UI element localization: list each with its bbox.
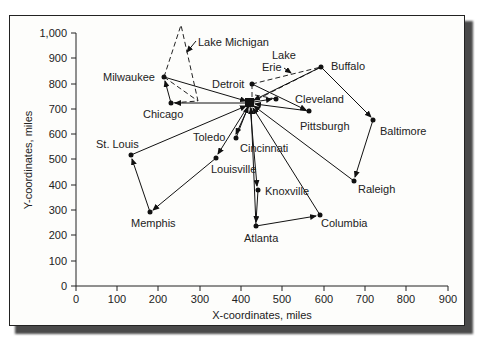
label-raleigh: Raleigh: [358, 183, 395, 195]
label-chicago: Chicago: [143, 108, 183, 120]
label-pittsburgh: Pittsburgh: [300, 120, 350, 132]
label-toledo: Toledo: [193, 131, 225, 143]
label-detroit: Detroit: [212, 78, 244, 90]
y-tick-labels: 0 100 200 300 400 500 600 700 800 900 1,…: [39, 27, 67, 292]
dot-chicago: [169, 101, 174, 106]
city-labels: Lake Michigan Lake Erie Milwaukee Chicag…: [96, 36, 426, 244]
dot-pittsburgh: [307, 109, 312, 114]
label-cleveland: Cleveland: [295, 93, 344, 105]
x-tick-400: 400: [232, 293, 250, 305]
y-axis-title: Y-coordinates, miles: [22, 110, 34, 209]
y-tick-500: 500: [49, 153, 67, 165]
y-tick-400: 400: [49, 179, 67, 191]
dot-knoxville: [256, 188, 261, 193]
chart-svg: 0 100 200 300 400 500 600 700 800 900 1,…: [0, 0, 481, 344]
y-tick-600: 600: [49, 128, 67, 140]
x-axis-title: X-coordinates, miles: [212, 309, 312, 321]
dot-louisville: [214, 156, 219, 161]
dot-detroit: [250, 82, 255, 87]
x-tick-labels: 0 100 200 300 400 500 600 700 800 900: [73, 293, 457, 305]
dot-toledo: [234, 136, 239, 141]
hub-marker: [245, 98, 254, 107]
x-tick-200: 200: [149, 293, 167, 305]
y-tick-200: 200: [49, 229, 67, 241]
dot-memphis: [148, 210, 153, 215]
y-axis: [71, 33, 76, 286]
label-atlanta: Atlanta: [244, 232, 279, 244]
x-tick-500: 500: [273, 293, 291, 305]
x-tick-800: 800: [397, 293, 415, 305]
label-memphis: Memphis: [131, 217, 176, 229]
dot-milwaukee: [162, 75, 167, 80]
x-tick-0: 0: [73, 293, 79, 305]
y-tick-0: 0: [61, 280, 67, 292]
x-tick-100: 100: [108, 293, 126, 305]
y-tick-700: 700: [49, 103, 67, 115]
y-tick-800: 800: [49, 78, 67, 90]
label-lake-erie-2: Erie: [262, 61, 282, 73]
y-tick-1000: 1,000: [39, 27, 67, 39]
dot-atlanta: [254, 224, 259, 229]
x-tick-600: 600: [315, 293, 333, 305]
y-tick-300: 300: [49, 204, 67, 216]
label-milwaukee: Milwaukee: [103, 71, 155, 83]
label-buffalo: Buffalo: [331, 60, 365, 72]
label-lake-erie-1: Lake: [272, 49, 296, 61]
dot-raleigh: [352, 179, 357, 184]
y-tick-100: 100: [49, 255, 67, 267]
dot-baltimore: [371, 118, 376, 123]
label-st-louis: St. Louis: [96, 138, 139, 150]
label-lake-michigan: Lake Michigan: [198, 36, 269, 48]
x-axis: [76, 286, 448, 291]
x-tick-700: 700: [356, 293, 374, 305]
y-tick-900: 900: [49, 52, 67, 64]
dot-buffalo: [319, 65, 324, 70]
label-columbia: Columbia: [321, 217, 368, 229]
label-baltimore: Baltimore: [380, 125, 426, 137]
label-louisville: Louisville: [211, 163, 256, 175]
x-tick-300: 300: [191, 293, 209, 305]
label-knoxville: Knoxville: [265, 185, 309, 197]
x-tick-900: 900: [439, 293, 457, 305]
dot-st-louis: [129, 153, 134, 158]
dot-cleveland: [274, 97, 279, 102]
label-cincinnati: Cincinnati: [240, 142, 288, 154]
